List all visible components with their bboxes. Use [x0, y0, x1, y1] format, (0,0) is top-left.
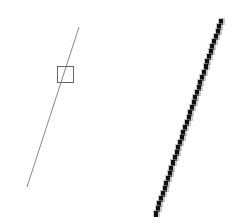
diagram-canvas: [0, 0, 244, 224]
thin-diagonal-line: [27, 27, 79, 187]
pixelated-diagonal-line: [153, 18, 225, 217]
